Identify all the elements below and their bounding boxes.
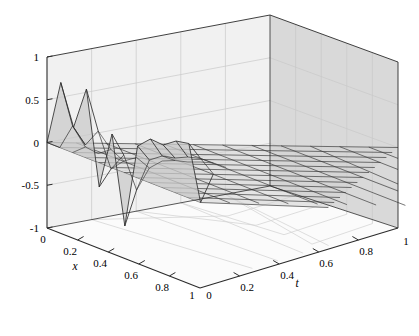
z-tick-label--1: -1	[30, 222, 39, 234]
z-tick-label--0.5: -0.5	[22, 179, 40, 191]
x-tick-label-0: 0	[40, 233, 46, 245]
x-axis-label: x	[71, 260, 78, 272]
t-tick-label-0.4: 0.4	[280, 269, 294, 281]
t-tick-label-0.6: 0.6	[319, 257, 333, 269]
z-tick-label-0.5: 0.5	[25, 94, 39, 106]
z-tick-label-0: 0	[34, 137, 40, 149]
surface-plot-figure: 1 0.5 0 -0.5 -1 0 0.2 0.4 0.6 0.8 1 0 0.…	[0, 0, 419, 336]
z-axis-tick-labels: 1 0.5 0 -0.5 -1	[22, 51, 40, 234]
t-tick-label-0: 0	[206, 289, 212, 301]
z-tick-label-1: 1	[34, 51, 40, 63]
x-tick-label-0.8: 0.8	[155, 281, 169, 293]
t-tick-label-1: 1	[403, 235, 409, 247]
t-tick-label-0.2: 0.2	[240, 281, 254, 293]
plot-canvas: 1 0.5 0 -0.5 -1 0 0.2 0.4 0.6 0.8 1 0 0.…	[0, 0, 419, 336]
t-axis-label: t	[295, 277, 299, 289]
x-tick-label-0.4: 0.4	[93, 257, 107, 269]
t-tick-label-0.8: 0.8	[359, 245, 373, 257]
x-tick-label-0.2: 0.2	[63, 245, 77, 257]
x-tick-label-0.6: 0.6	[124, 269, 138, 281]
x-tick-label-1: 1	[189, 289, 195, 301]
